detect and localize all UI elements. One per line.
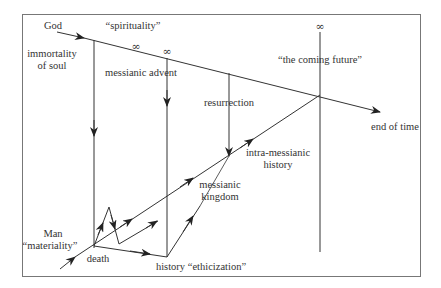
label-immortality-2: of soul xyxy=(38,60,67,71)
label-messianic-advent: messianic advent xyxy=(105,67,177,78)
label-end-of-time: end of time xyxy=(371,121,419,132)
kingdom-rise-arrow xyxy=(183,216,193,232)
label-ethicization: history “ethicization” xyxy=(156,261,246,272)
god-incoming-arrow xyxy=(57,32,84,38)
label-intra-messianic-1: intra-messianic xyxy=(246,147,310,158)
label-intra-messianic-2: history xyxy=(263,159,293,170)
label-materiality: “materiality” xyxy=(23,240,78,251)
label-death: death xyxy=(87,253,110,264)
infinity-symbol-1: ∞ xyxy=(131,40,140,53)
label-messianic-kingdom-2: kingdom xyxy=(201,191,238,202)
label-man: Man xyxy=(43,228,63,239)
zigzag-arrow-up xyxy=(98,223,103,235)
ethicization-arrow xyxy=(130,251,150,254)
infinity-symbol-3: ∞ xyxy=(315,20,324,33)
man-incoming-arrow xyxy=(60,257,75,269)
zigzag-arrow-down xyxy=(111,215,115,229)
diag-arrow-1 xyxy=(120,219,132,227)
theology-time-diagram: ∞ ∞ ∞ God “spirituality” immortality of … xyxy=(0,0,441,288)
label-coming-future: “the coming future” xyxy=(278,54,362,65)
label-immortality-1: immortality xyxy=(27,48,77,59)
label-resurrection: resurrection xyxy=(204,97,255,108)
label-messianic-kingdom-1: messianic xyxy=(199,179,241,190)
infinity-symbol-2: ∞ xyxy=(162,45,171,58)
label-spirituality: “spirituality” xyxy=(106,20,161,31)
zigzag-arrow-right xyxy=(146,221,157,228)
history-diagonal xyxy=(75,95,320,257)
label-god: God xyxy=(44,20,63,31)
